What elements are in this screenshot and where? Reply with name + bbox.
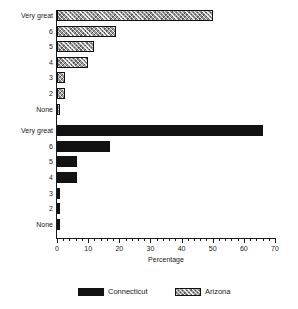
x-tick-label: 60 (234, 245, 254, 253)
x-tick-label: 30 (140, 245, 160, 253)
x-tick-minor (144, 238, 145, 241)
legend-label: Connecticut (108, 287, 148, 297)
x-tick-minor (250, 238, 251, 241)
x-tick-label: 20 (109, 245, 129, 253)
x-tick-major (213, 238, 214, 243)
bar-row (57, 10, 275, 21)
x-tick-minor (76, 238, 77, 241)
y-axis-label: 5 (0, 156, 53, 167)
bar-row (57, 188, 275, 199)
x-tick-major (57, 238, 58, 243)
bar-row (57, 57, 275, 68)
x-tick-minor (126, 238, 127, 241)
y-axis-label: 3 (0, 72, 53, 83)
bar-connecticut-2 (57, 203, 60, 214)
bar-arizona-2 (57, 88, 65, 99)
bar-row (57, 104, 275, 115)
x-tick-label: 0 (47, 245, 67, 253)
x-tick-minor (107, 238, 108, 241)
bar-connecticut-none (57, 219, 60, 230)
bar-row (57, 41, 275, 52)
legend-swatch-connecticut (78, 288, 104, 296)
chart-legend: ConnecticutArizona (0, 287, 298, 299)
x-tick-minor (231, 238, 232, 241)
x-tick-minor (157, 238, 158, 241)
y-axis-label: Very great (0, 125, 53, 136)
x-axis-title: Percentage (57, 256, 275, 263)
bar-row (57, 203, 275, 214)
x-tick-minor (113, 238, 114, 241)
legend-item-arizona: Arizona (175, 287, 230, 297)
x-tick-minor (69, 238, 70, 241)
bar-row (57, 88, 275, 99)
bar-row (57, 72, 275, 83)
y-axis-label: 2 (0, 88, 53, 99)
bar-arizona-none (57, 104, 60, 115)
x-tick-minor (82, 238, 83, 241)
x-tick-minor (94, 238, 95, 241)
x-tick-minor (188, 238, 189, 241)
legend-label: Arizona (205, 287, 230, 297)
bar-connecticut-4 (57, 172, 77, 183)
bar-row (57, 156, 275, 167)
x-tick-minor (225, 238, 226, 241)
y-axis-label: Very great (0, 10, 53, 21)
x-tick-label: 40 (172, 245, 192, 253)
y-axis-label: None (0, 219, 53, 230)
y-axis-label: 3 (0, 188, 53, 199)
bar-connecticut-6 (57, 141, 110, 152)
y-axis-label: 2 (0, 203, 53, 214)
x-tick-minor (194, 238, 195, 241)
x-tick-minor (269, 238, 270, 241)
bar-row (57, 125, 275, 136)
x-tick-minor (163, 238, 164, 241)
x-tick-minor (175, 238, 176, 241)
x-tick-minor (200, 238, 201, 241)
x-tick-label: 10 (78, 245, 98, 253)
x-tick-major (244, 238, 245, 243)
bar-connecticut-3 (57, 188, 60, 199)
bar-arizona-5 (57, 41, 94, 52)
bar-row (57, 141, 275, 152)
bar-arizona-4 (57, 57, 88, 68)
bar-arizona-6 (57, 26, 116, 37)
x-tick-minor (169, 238, 170, 241)
bar-connecticut-very-great (57, 125, 263, 136)
y-axis-label: 4 (0, 57, 53, 68)
y-axis-label: 6 (0, 141, 53, 152)
legend-item-connecticut: Connecticut (78, 287, 148, 297)
bar-connecticut-5 (57, 156, 77, 167)
y-axis-label: 5 (0, 41, 53, 52)
x-tick-minor (206, 238, 207, 241)
x-tick-major (150, 238, 151, 243)
x-tick-minor (138, 238, 139, 241)
bar-row (57, 26, 275, 37)
x-tick-minor (263, 238, 264, 241)
x-tick-minor (219, 238, 220, 241)
x-tick-label: 50 (203, 245, 223, 253)
bar-arizona-3 (57, 72, 65, 83)
bar-chart: Very great65432NoneVery great65432None 0… (0, 0, 298, 309)
y-axis-label: None (0, 104, 53, 115)
x-tick-major (119, 238, 120, 243)
legend-swatch-arizona (175, 288, 201, 296)
x-tick-minor (63, 238, 64, 241)
x-tick-minor (132, 238, 133, 241)
y-axis-label: 6 (0, 26, 53, 37)
bar-arizona-very-great (57, 10, 213, 21)
x-tick-minor (101, 238, 102, 241)
x-tick-major (275, 238, 276, 243)
bar-row (57, 172, 275, 183)
y-axis-label: 4 (0, 172, 53, 183)
x-tick-label: 70 (265, 245, 285, 253)
x-tick-major (88, 238, 89, 243)
x-tick-major (182, 238, 183, 243)
bar-row (57, 219, 275, 230)
x-tick-minor (256, 238, 257, 241)
x-tick-minor (238, 238, 239, 241)
